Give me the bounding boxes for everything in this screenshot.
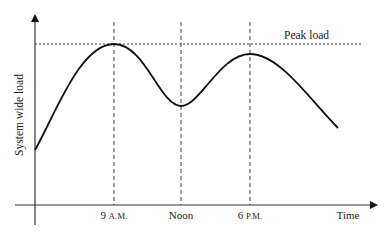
load-curve-diagram: System wide load Peak load 9 A.M. Noon 6… (0, 0, 392, 237)
y-axis-label: System wide load (13, 74, 26, 156)
peak-load-label: Peak load (284, 29, 329, 41)
diagram-svg: System wide load Peak load 9 A.M. Noon 6… (0, 0, 392, 237)
tick-9am: 9 A.M. (101, 209, 128, 221)
x-axis-label: Time (337, 209, 360, 221)
tick-6pm: 6 P.M. (238, 209, 263, 221)
tick-noon: Noon (169, 209, 194, 221)
load-curve (35, 44, 338, 150)
